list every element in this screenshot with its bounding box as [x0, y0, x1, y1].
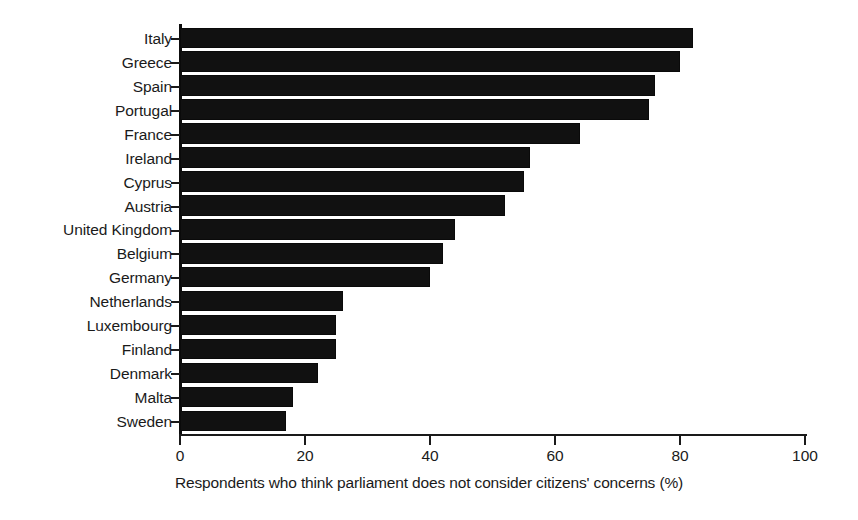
y-axis-label-item: Germany [0, 266, 172, 290]
y-axis-label-text: Sweden [117, 413, 172, 431]
bar [180, 123, 580, 144]
y-axis-label-text: Greece [122, 54, 172, 72]
y-axis-tick-mark [171, 325, 180, 327]
bar-chart: ItalyGreeceSpainPortugalFranceIrelandCyp… [0, 0, 858, 520]
bar [180, 363, 318, 384]
y-axis-label-item: Belgium [0, 242, 172, 266]
y-axis-tick-mark [171, 38, 180, 40]
bar-row [180, 362, 805, 386]
bar-row [180, 219, 805, 243]
bar-row [180, 242, 805, 266]
y-axis-label-item: Portugal [0, 99, 172, 123]
y-axis-label-item: Denmark [0, 362, 172, 386]
y-axis-tick-mark [171, 277, 180, 279]
bar [180, 267, 430, 288]
x-axis-tick-mark [804, 436, 806, 445]
bar-row [180, 99, 805, 123]
bar-row [180, 314, 805, 338]
x-axis-tick-label: 100 [792, 447, 818, 465]
y-axis-tick-mark [171, 421, 180, 423]
y-axis-label-text: Spain [133, 78, 172, 96]
y-axis-tick-mark [171, 158, 180, 160]
x-axis-tick-mark [429, 436, 431, 445]
bar [180, 51, 680, 72]
y-axis-label-text: Cyprus [124, 174, 173, 192]
x-axis-tick-mark [304, 436, 306, 445]
bar [180, 195, 505, 216]
bar [180, 315, 336, 336]
y-axis-label-text: Luxembourg [87, 317, 172, 335]
bar [180, 219, 455, 240]
y-axis-label-item: Cyprus [0, 171, 172, 195]
y-axis-label-text: Finland [122, 341, 172, 359]
bar-row [180, 171, 805, 195]
plot-area [180, 27, 805, 434]
bar [180, 171, 524, 192]
y-axis-label-item: Austria [0, 195, 172, 219]
bar [180, 411, 286, 432]
bar-row [180, 51, 805, 75]
x-axis-tick-label: 40 [421, 447, 438, 465]
y-axis-label-item: Sweden [0, 410, 172, 434]
bar [180, 28, 693, 49]
y-axis-tick-mark [171, 253, 180, 255]
y-axis-label-text: Austria [124, 198, 172, 216]
y-axis-label-text: Belgium [117, 245, 172, 263]
y-axis-tick-mark [171, 86, 180, 88]
bar [180, 291, 343, 312]
y-axis-tick-mark [171, 230, 180, 232]
y-axis-label-item: Netherlands [0, 290, 172, 314]
y-axis-label-text: United Kingdom [63, 221, 172, 239]
y-axis-tick-mark [171, 182, 180, 184]
x-axis-tick-mark [179, 436, 181, 445]
bar-row [180, 147, 805, 171]
x-axis-tick-label: 0 [176, 447, 185, 465]
y-axis-label-item: Italy [0, 27, 172, 51]
y-axis-tick-mark [171, 373, 180, 375]
y-axis-label-text: Malta [135, 389, 172, 407]
bar [180, 243, 443, 264]
y-axis-label-item: Greece [0, 51, 172, 75]
y-axis-tick-mark [171, 110, 180, 112]
bar-row [180, 410, 805, 434]
bar [180, 147, 530, 168]
y-axis-label-item: France [0, 123, 172, 147]
x-axis-tick-mark [554, 436, 556, 445]
y-axis-tick-mark [171, 349, 180, 351]
y-axis-tick-mark [171, 134, 180, 136]
y-axis-label-item: Ireland [0, 147, 172, 171]
bar-row [180, 338, 805, 362]
x-axis-tick-label: 20 [296, 447, 313, 465]
y-axis-label-item: Luxembourg [0, 314, 172, 338]
bar-row [180, 290, 805, 314]
y-axis-label-item: Spain [0, 75, 172, 99]
bar-row [180, 123, 805, 147]
bar-row [180, 195, 805, 219]
y-axis-label-text: Portugal [115, 102, 172, 120]
y-axis-label-item: Finland [0, 338, 172, 362]
y-axis-tick-mark [171, 206, 180, 208]
bar [180, 387, 293, 408]
y-axis-label-text: Netherlands [90, 293, 172, 311]
bar [180, 99, 649, 120]
y-axis-tick-mark [171, 301, 180, 303]
y-axis-label-text: Denmark [110, 365, 172, 383]
x-axis-title: Respondents who think parliament does no… [0, 474, 858, 492]
x-axis-tick-mark [679, 436, 681, 445]
bar-row [180, 75, 805, 99]
bar-row [180, 386, 805, 410]
x-axis-tick-label: 80 [671, 447, 688, 465]
y-axis-label-item: United Kingdom [0, 219, 172, 243]
y-axis-tick-mark [171, 62, 180, 64]
y-axis-label-text: Ireland [125, 150, 172, 168]
bar-row [180, 27, 805, 51]
bar [180, 75, 655, 96]
x-axis-line [179, 434, 807, 436]
bar-row [180, 266, 805, 290]
bar [180, 339, 336, 360]
y-axis-tick-mark [171, 397, 180, 399]
y-axis-label-item: Malta [0, 386, 172, 410]
y-axis-label-text: Germany [109, 269, 172, 287]
y-axis-label-text: Italy [144, 30, 172, 48]
x-axis-tick-label: 60 [546, 447, 563, 465]
